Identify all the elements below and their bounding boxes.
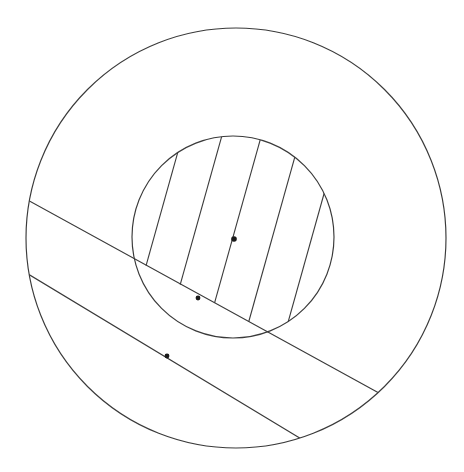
hatch-line	[249, 144, 299, 322]
hatch-line	[58, 294, 60, 300]
hatch-line	[78, 93, 116, 228]
hatch-line	[317, 165, 372, 360]
hatch-line	[146, 113, 189, 265]
hatch-line	[215, 134, 262, 303]
center-dot	[231, 236, 237, 242]
band-lower-edge	[0, 256, 337, 460]
hatch-line	[351, 175, 408, 379]
geometry-figure	[0, 0, 464, 472]
secant-band-group	[0, 184, 423, 461]
hatch-line	[283, 154, 335, 340]
hatch-line	[180, 124, 225, 285]
band-lower-dot	[165, 354, 170, 359]
marker-dots	[165, 236, 237, 358]
band-inner-dot	[196, 296, 201, 301]
hatch-line	[112, 103, 152, 246]
band-upper-edge	[0, 184, 423, 418]
diagram-canvas	[0, 0, 464, 472]
